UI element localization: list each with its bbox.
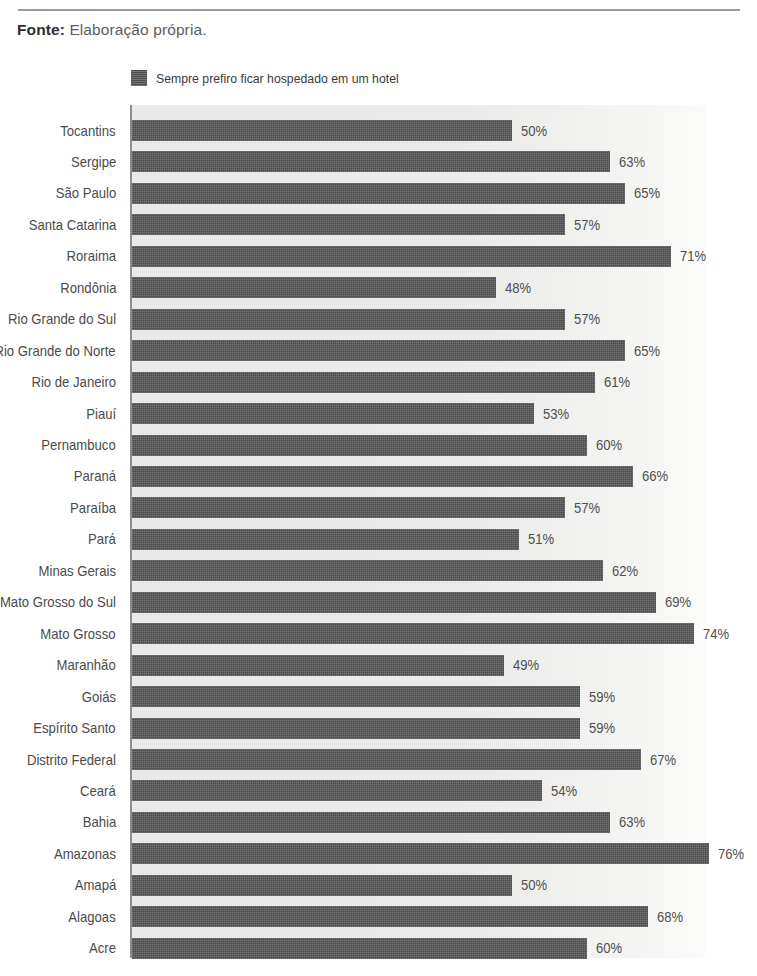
bar-row: Alagoas68%	[0, 906, 757, 927]
bar-value-label: 51%	[528, 532, 554, 546]
bar-value-label: 68%	[657, 910, 683, 924]
bar-value-label: 76%	[718, 847, 744, 861]
bar-value-label: 62%	[612, 564, 638, 578]
bar	[132, 497, 565, 518]
bar-value-label: 66%	[642, 469, 668, 483]
bar-value-label: 65%	[634, 344, 660, 358]
category-label: Minas Gerais	[39, 564, 116, 579]
bar-value-label: 69%	[665, 595, 691, 609]
bar-row: Tocantins50%	[0, 120, 757, 141]
bar	[132, 560, 603, 581]
bar-value-label: 71%	[680, 249, 706, 263]
bar-row: Pernambuco60%	[0, 435, 757, 456]
bar-value-label: 49%	[513, 658, 539, 672]
bar-row: Rio de Janeiro61%	[0, 372, 757, 393]
bar-value-label: 65%	[634, 186, 660, 200]
bar	[132, 718, 580, 739]
category-label: Paraíba	[70, 501, 116, 516]
category-label: Roraima	[66, 249, 116, 264]
bar-value-label: 60%	[596, 438, 622, 452]
category-label: Alagoas	[69, 909, 116, 924]
bar-row: Paraíba57%	[0, 497, 757, 518]
bar	[132, 938, 587, 959]
bar	[132, 435, 587, 456]
category-label: Piauí	[86, 406, 116, 421]
category-label: Amazonas	[54, 847, 116, 862]
bar-row: Minas Gerais62%	[0, 560, 757, 581]
category-label: Espírito Santo	[33, 721, 116, 736]
bar	[132, 780, 542, 801]
category-label: Acre	[89, 941, 116, 956]
bar	[132, 340, 625, 361]
bar-value-label: 48%	[505, 281, 531, 295]
bar-rows: Tocantins50%Sergipe63%São Paulo65%Santa …	[0, 0, 757, 976]
category-label: Paraná	[74, 469, 116, 484]
category-label: Pará	[88, 532, 116, 547]
bar-value-label: 59%	[589, 721, 615, 735]
bar-value-label: 50%	[521, 123, 547, 137]
bar-value-label: 60%	[596, 941, 622, 955]
category-label: Santa Catarina	[28, 218, 116, 233]
bar	[132, 686, 580, 707]
category-label: São Paulo	[55, 186, 116, 201]
category-label: Distrito Federal	[27, 752, 116, 767]
bar-row: Amazonas76%	[0, 843, 757, 864]
bar	[132, 183, 625, 204]
bar-value-label: 57%	[574, 312, 600, 326]
bar-value-label: 63%	[619, 155, 645, 169]
bar-row: Sergipe63%	[0, 151, 757, 172]
bar	[132, 529, 519, 550]
category-label: Tocantins	[61, 123, 116, 138]
bar	[132, 843, 709, 864]
bar-row: Rio Grande do Sul57%	[0, 309, 757, 330]
bar-row: Paraná66%	[0, 466, 757, 487]
bar-row: Ceará54%	[0, 780, 757, 801]
category-label: Amapá	[74, 878, 116, 893]
bar	[132, 277, 496, 298]
bar	[132, 655, 504, 676]
category-label: Ceará	[80, 784, 116, 799]
category-label: Pernambuco	[42, 438, 116, 453]
category-label: Mato Grosso do Sul	[0, 595, 116, 610]
bar-row: Mato Grosso do Sul69%	[0, 592, 757, 613]
bar	[132, 309, 565, 330]
bar	[132, 623, 694, 644]
bar-row: Rio Grande do Norte65%	[0, 340, 757, 361]
bar-row: Distrito Federal67%	[0, 749, 757, 770]
bar-value-label: 63%	[619, 815, 645, 829]
bar-value-label: 50%	[521, 878, 547, 892]
bar	[132, 812, 610, 833]
category-label: Sergipe	[71, 155, 116, 170]
bar	[132, 466, 633, 487]
category-label: Maranhão	[57, 658, 116, 673]
bar-row: Santa Catarina57%	[0, 214, 757, 235]
bar-value-label: 61%	[604, 375, 630, 389]
bar	[132, 151, 610, 172]
category-label: Bahia	[82, 815, 116, 830]
bar-row: Rondônia48%	[0, 277, 757, 298]
bar	[132, 214, 565, 235]
bar-row: São Paulo65%	[0, 183, 757, 204]
category-label: Rio Grande do Norte	[0, 343, 116, 358]
bar	[132, 372, 595, 393]
bar-value-label: 57%	[574, 218, 600, 232]
bar	[132, 403, 534, 424]
bar	[132, 906, 648, 927]
bar	[132, 592, 656, 613]
bar-row: Roraima71%	[0, 246, 757, 267]
category-label: Rio Grande do Sul	[8, 312, 116, 327]
bar	[132, 749, 641, 770]
category-label: Rondônia	[60, 280, 116, 295]
bar-value-label: 57%	[574, 501, 600, 515]
bar-row: Maranhão49%	[0, 655, 757, 676]
category-label: Goiás	[82, 689, 116, 704]
bar	[132, 875, 512, 896]
bar-row: Pará51%	[0, 529, 757, 550]
bar-value-label: 59%	[589, 689, 615, 703]
bar-value-label: 53%	[543, 406, 569, 420]
bar-row: Amapá50%	[0, 875, 757, 896]
bar-row: Piauí53%	[0, 403, 757, 424]
category-label: Mato Grosso	[41, 626, 116, 641]
bar-row: Bahia63%	[0, 812, 757, 833]
bar-row: Mato Grosso74%	[0, 623, 757, 644]
